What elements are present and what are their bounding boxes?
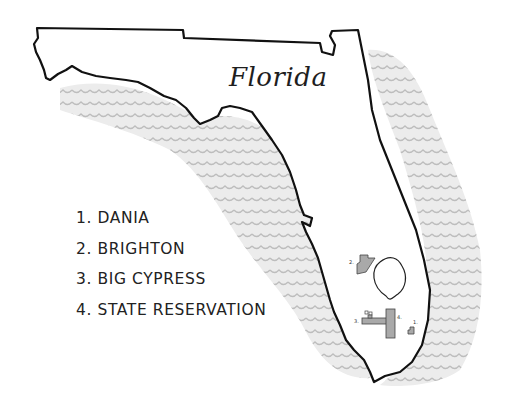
state-reservation [386, 309, 395, 338]
legend-item-big-cypress: 3. BIG CYPRESS [76, 264, 266, 295]
marker-dania: 1. [413, 319, 418, 325]
map-title: Florida [229, 62, 327, 92]
legend-item-brighton: 2. BRIGHTON [76, 234, 266, 265]
legend-item-state-reservation: 4. STATE RESERVATION [76, 295, 266, 326]
legend-item-dania: 1. DANIA [76, 203, 266, 234]
marker-brighton: 2. [349, 259, 354, 265]
legend: 1. DANIA 2. BRIGHTON 3. BIG CYPRESS 4. S… [76, 203, 266, 325]
marker-big-cypress: 3. [354, 318, 359, 324]
marker-state-reservation: 4. [397, 314, 402, 320]
